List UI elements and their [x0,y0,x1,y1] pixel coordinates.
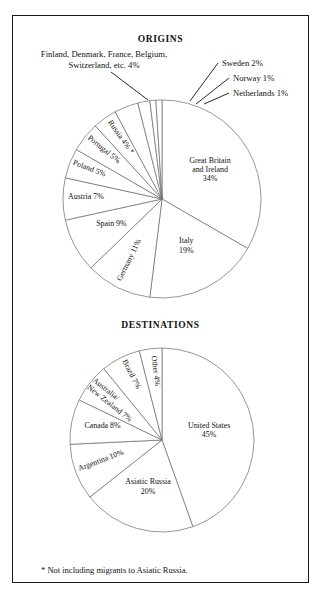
figure-frame: ORIGINS DESTINATIONS * Not including mig… [12,15,309,583]
origins-chart-title: ORIGINS [13,34,308,44]
figure-footnote: * Not including migrants to Asiatic Russ… [41,565,188,575]
destinations-chart-title: DESTINATIONS [13,320,308,330]
